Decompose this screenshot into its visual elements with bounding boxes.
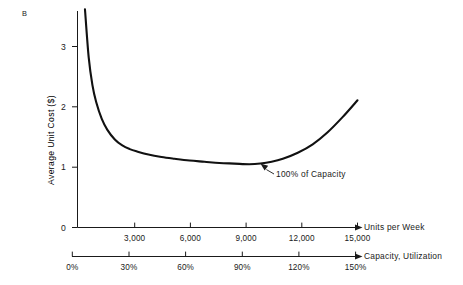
y-tick-label-0: 0 [61, 223, 66, 233]
capacity-tick-label-90: 90% [234, 263, 251, 272]
x-tick-label-9000: 9,000 [235, 234, 257, 243]
x-tick-label-3000: 3,000 [124, 234, 146, 243]
capacity-tick-label-150: 150% [345, 263, 367, 272]
x-axis-title: Units per Week [364, 222, 425, 232]
y-tick-label-3: 3 [61, 42, 66, 52]
capacity-annotation: 100% of Capacity [260, 164, 346, 179]
capacity-axis-title: Capacity, Utilization [364, 251, 442, 261]
average-unit-cost-curve [85, 9, 358, 164]
y-tick-label-1: 1 [61, 162, 66, 172]
y-tick-label-2: 2 [61, 102, 66, 112]
figure-container: B 3 2 1 0 Average Unit Cost ($) 3,00 [0, 0, 463, 285]
x-axis-ticks [135, 223, 358, 228]
annotation-leader-line [266, 170, 274, 174]
capacity-tick-label-120: 120% [288, 263, 310, 272]
x-tick-label-6000: 6,000 [180, 234, 202, 243]
annotation-label: 100% of Capacity [276, 169, 346, 179]
y-axis-ticks [72, 47, 78, 228]
capacity-tick-label-60: 60% [177, 263, 194, 272]
capacity-axis-ticks [72, 252, 355, 257]
cost-curve-chart: B 3 2 1 0 Average Unit Cost ($) 3,00 [0, 0, 463, 285]
capacity-tick-label-30: 30% [121, 263, 138, 272]
capacity-tick-label-0: 0% [66, 263, 78, 272]
x-axis-arrowhead [355, 224, 363, 230]
panel-label: B [22, 9, 27, 18]
capacity-axis-arrowhead [355, 253, 363, 259]
x-tick-label-12000: 12,000 [289, 234, 315, 243]
y-axis-title: Average Unit Cost ($) [46, 95, 56, 185]
x-tick-label-15000: 15,000 [345, 234, 371, 243]
